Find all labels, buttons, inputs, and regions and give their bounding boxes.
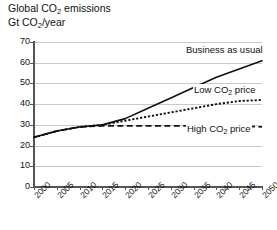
x-axis-tick-label: 2035: [192, 180, 212, 200]
series-label-low-co2-price: Low CO2 price: [193, 84, 256, 95]
chart-subtitle-suffix: /year: [42, 16, 65, 28]
chart-figure: Global CO2 emissions Gt CO2/year 0102030…: [0, 0, 277, 230]
page-title: Global CO2 emissions: [8, 2, 111, 16]
chart-subtitle-subscript: 2: [38, 21, 42, 30]
series-label-business-as-usual: Business as usual: [185, 44, 264, 55]
y-axis-tick-mark: [30, 166, 34, 167]
y-axis-tick-label: 70: [8, 36, 30, 46]
x-axis-tick-label: 2045: [237, 180, 257, 200]
y-axis-tick-mark: [30, 146, 34, 147]
y-axis-tick-label: 0: [8, 181, 30, 191]
y-axis-tick-mark: [30, 42, 34, 43]
series-label-bau-text: Business as usual: [186, 44, 263, 55]
gridline: [34, 42, 262, 43]
series-label-low-subscript: 2: [228, 89, 232, 96]
y-axis-tick-label: 30: [8, 119, 30, 129]
gridline: [34, 146, 262, 147]
x-axis-tick-label: 2050: [260, 180, 277, 200]
chart-title-block: Global CO2 emissions Gt CO2/year: [8, 2, 111, 30]
series-label-high-co2-price: High CO2 price: [186, 123, 252, 134]
y-axis-tick-mark: [30, 63, 34, 64]
series-label-high-subscript: 2: [223, 128, 227, 135]
chart-subtitle: Gt CO2/year: [8, 16, 111, 30]
gridline: [34, 166, 262, 167]
series-label-low-suffix: price: [232, 84, 255, 95]
x-axis-tick-label: 2030: [169, 180, 189, 200]
gridline: [34, 104, 262, 105]
chart-subtitle-text: Gt CO: [8, 16, 38, 28]
series-label-low-text: Low CO: [194, 84, 228, 95]
y-axis-tick-mark: [30, 125, 34, 126]
y-axis-tick-label: 40: [8, 98, 30, 108]
x-axis-tick-label: 2005: [55, 180, 75, 200]
y-axis-tick-label: 50: [8, 77, 30, 87]
series-label-high-text: High CO: [187, 123, 223, 134]
chart-title-subscript: 2: [57, 7, 61, 16]
x-axis-tick-label: 2010: [78, 180, 98, 200]
y-axis-tick-label: 60: [8, 57, 30, 67]
chart-title-text: Global CO: [8, 2, 57, 14]
y-axis-tick-mark: [30, 83, 34, 84]
x-axis-tick-label: 2000: [32, 180, 52, 200]
y-axis-tick-label: 20: [8, 140, 30, 150]
series-label-high-suffix: price: [227, 123, 250, 134]
y-axis-tick-mark: [30, 104, 34, 105]
x-axis-tick-label: 2025: [146, 180, 166, 200]
chart-title-suffix: emissions: [61, 2, 111, 14]
y-axis-tick-label: 10: [8, 160, 30, 170]
x-axis-tick-label: 2040: [214, 180, 234, 200]
x-axis-tick-label: 2015: [100, 180, 120, 200]
gridline: [34, 63, 262, 64]
x-axis-tick-label: 2020: [123, 180, 143, 200]
